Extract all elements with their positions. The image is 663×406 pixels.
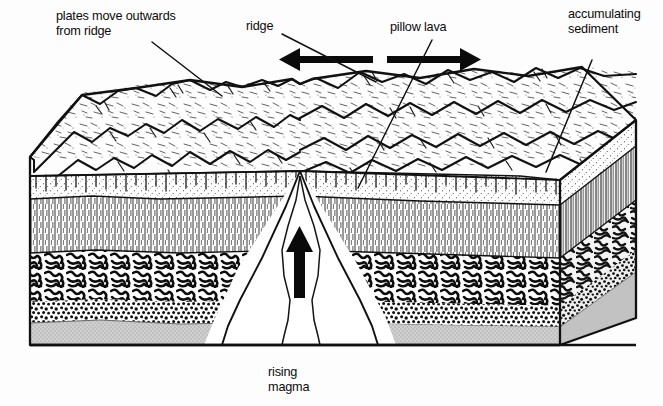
label-ridge: ridge xyxy=(246,18,273,33)
label-plates-move-outwards: plates move outwards from ridge xyxy=(56,8,176,38)
ridge-block-diagram xyxy=(0,0,663,406)
label-rising-magma: rising magma xyxy=(268,364,309,394)
label-pillow-lava: pillow lava xyxy=(390,19,446,34)
label-accumulating-sediment: accumulating sediment xyxy=(568,6,641,36)
